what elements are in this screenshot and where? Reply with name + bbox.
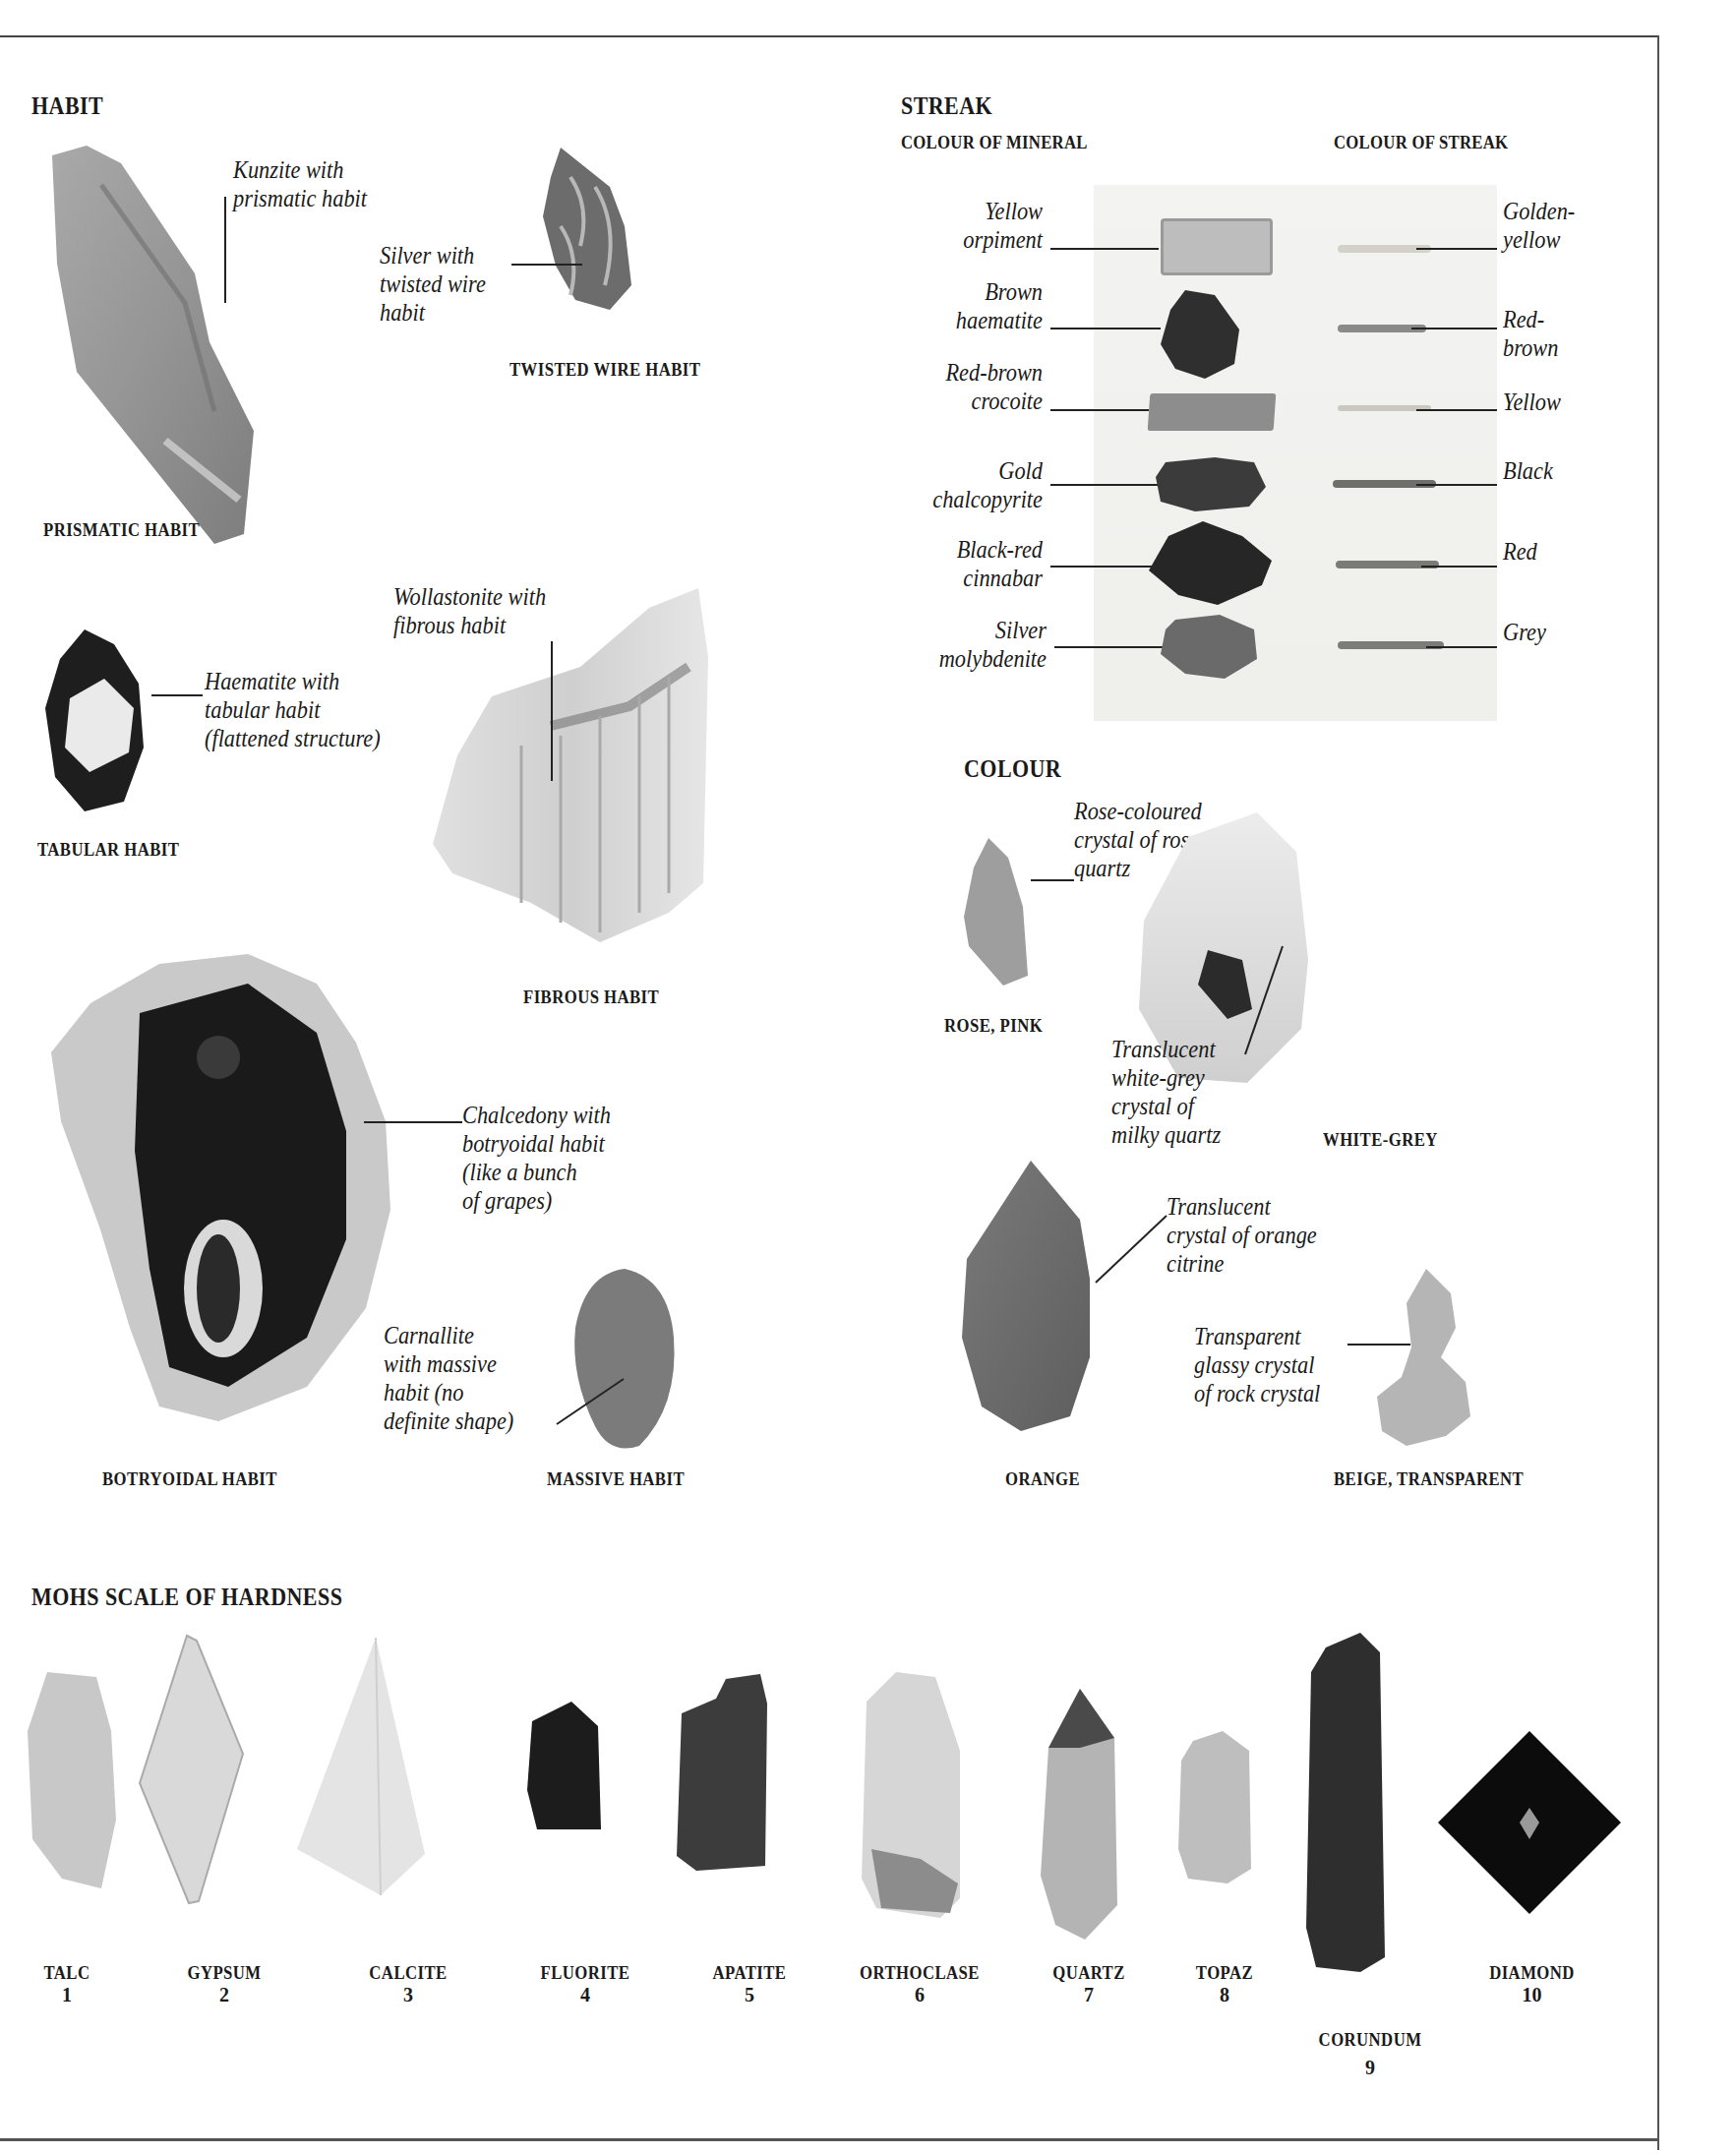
streak-colour-label: Golden- yellow	[1503, 197, 1575, 254]
mineral-leader-line	[1054, 646, 1165, 648]
kunzite-leader-line	[224, 197, 226, 303]
rock-crystal-annotation: Transparent glassy crystal of rock cryst…	[1194, 1322, 1320, 1407]
mohs-mineral: CORUNDUM 9	[1296, 2029, 1444, 2079]
fluorite-specimen-icon	[527, 1702, 606, 1829]
mohs-mineral: CALCITE 3	[344, 1962, 472, 2006]
streak-colour-label: Black	[1503, 456, 1553, 485]
mohs-mineral: TALC 1	[18, 1962, 116, 2006]
streak-leader-line	[1416, 248, 1497, 250]
fibrous-habit-caption: FIBROUS HABIT	[523, 987, 659, 1008]
rock-crystal-icon	[1377, 1269, 1470, 1446]
page-frame-bottom-rule	[0, 2138, 1659, 2141]
mohs-hardness-value: 4	[521, 1984, 649, 2006]
mohs-mineral-name: ORTHOCLASE	[855, 1962, 985, 1984]
chalcedony-geode-icon	[51, 954, 405, 1426]
citrine-icon	[962, 1161, 1095, 1431]
haematite-annotation: Haematite with tabular habit (flattened …	[205, 667, 381, 752]
mineral-colour-label: Yellow orpiment	[873, 197, 1043, 254]
mohs-mineral-name: QUARTZ	[1042, 1962, 1137, 1984]
citrine-annotation: Translucent crystal of orange citrine	[1167, 1192, 1317, 1278]
mohs-mineral-name: TOPAZ	[1181, 1962, 1268, 1984]
prismatic-habit-caption: PRISMATIC HABIT	[43, 519, 200, 541]
gypsum-specimen-icon	[140, 1636, 246, 1903]
page-frame-right-rule	[1657, 35, 1659, 2150]
mohs-mineral-name: FLUORITE	[529, 1962, 641, 1984]
mineral-colour-label: Silver molybdenite	[874, 616, 1047, 673]
colour-of-streak-header: COLOUR OF STREAK	[1334, 132, 1508, 153]
mohs-mineral-name: DIAMOND	[1478, 1962, 1586, 1984]
white-grey-caption: WHITE-GREY	[1323, 1129, 1438, 1151]
mohs-hardness-value: 10	[1470, 1984, 1593, 2006]
apatite-specimen-icon	[677, 1674, 770, 1871]
mineral-leader-line	[1050, 566, 1161, 568]
beige-transparent-caption: BEIGE, TRANSPARENT	[1334, 1468, 1524, 1490]
mohs-mineral: QUARTZ 7	[1035, 1962, 1143, 2006]
mineral-colour-label: Gold chalcopyrite	[873, 456, 1043, 513]
wollastonite-icon	[433, 588, 713, 957]
streak-leader-line	[1421, 566, 1497, 568]
wollastonite-leader-line	[551, 641, 553, 781]
silver-annotation: Silver with twisted wire habit	[380, 241, 486, 327]
mohs-mineral: ORTHOCLASE 6	[846, 1962, 993, 2006]
kunzite-annotation: Kunzite with prismatic habit	[233, 155, 367, 212]
mohs-hardness-value: 9	[1296, 2057, 1444, 2079]
orpiment-specimen-icon	[1161, 218, 1273, 275]
silver-wire-icon	[541, 148, 634, 315]
diamond-specimen-icon	[1438, 1731, 1621, 1914]
streak-leader-line	[1426, 646, 1497, 648]
orange-caption: ORANGE	[1005, 1468, 1080, 1490]
carnallite-leader-line	[557, 1377, 626, 1426]
milky-quartz-annotation: Translucent white-grey crystal of milky …	[1111, 1035, 1221, 1149]
colour-of-mineral-header: COLOUR OF MINERAL	[901, 132, 1088, 153]
orthoclase-specimen-icon	[862, 1672, 965, 1918]
streak-colour-label: Red- brown	[1503, 305, 1558, 362]
mohs-hardness-value: 3	[344, 1984, 472, 2006]
calcite-specimen-icon	[297, 1638, 433, 1898]
massive-habit-caption: MASSIVE HABIT	[547, 1468, 685, 1490]
chalcopyrite-specimen-icon	[1156, 457, 1269, 511]
streak-colour-label: Red	[1503, 537, 1537, 566]
corundum-specimen-icon	[1306, 1633, 1387, 1972]
mohs-hardness-value: 8	[1175, 1984, 1274, 2006]
haematite-crystal-icon	[45, 629, 153, 811]
haematite-specimen-icon	[1161, 290, 1244, 379]
milky-quartz-leader-line	[1243, 946, 1285, 1056]
topaz-specimen-icon	[1178, 1731, 1252, 1884]
silver-leader-line	[511, 264, 582, 266]
streak-colour-label: Yellow	[1503, 388, 1561, 416]
mohs-hardness-value: 5	[686, 1984, 813, 2006]
mohs-hardness-value: 6	[846, 1984, 993, 2006]
quartz-specimen-icon	[1041, 1689, 1119, 1940]
mohs-mineral: TOPAZ 8	[1175, 1962, 1274, 2006]
page-frame-top-rule	[0, 35, 1658, 37]
twisted-wire-habit-caption: TWISTED WIRE HABIT	[509, 359, 700, 381]
mohs-hardness-value: 1	[18, 1984, 116, 2006]
haematite-leader-line	[151, 694, 203, 696]
carnallite-annotation: Carnallite with massive habit (no defini…	[384, 1321, 513, 1435]
mohs-mineral-name: GYPSUM	[172, 1962, 276, 1984]
talc-specimen-icon	[28, 1672, 122, 1888]
streak-colour-label: Grey	[1503, 618, 1546, 646]
mohs-mineral-name: CALCITE	[352, 1962, 464, 1984]
mineral-colour-label: Red-brown crocoite	[873, 358, 1043, 415]
mohs-mineral-name: TALC	[24, 1962, 110, 1984]
rose-quartz-icon	[964, 838, 1035, 986]
streak-heading: STREAK	[901, 92, 992, 120]
streak-leader-line	[1416, 409, 1497, 411]
streak-leader-line	[1411, 328, 1497, 329]
rose-pink-caption: ROSE, PINK	[944, 1015, 1043, 1037]
molybdenite-specimen-icon	[1161, 615, 1259, 679]
botryoidal-habit-caption: BOTRYOIDAL HABIT	[102, 1468, 277, 1490]
colour-heading: COLOUR	[964, 755, 1061, 783]
tabular-habit-caption: TABULAR HABIT	[37, 839, 179, 861]
chalcedony-leader-line	[364, 1121, 462, 1123]
mohs-hardness-value: 7	[1035, 1984, 1143, 2006]
mineral-leader-line	[1050, 248, 1159, 250]
mineral-colour-label: Brown haematite	[873, 277, 1043, 334]
mohs-mineral: APATITE 5	[686, 1962, 813, 2006]
mohs-mineral: DIAMOND 10	[1470, 1962, 1593, 2006]
mohs-mineral-name: APATITE	[693, 1962, 806, 1984]
mineral-leader-line	[1050, 484, 1159, 486]
rock-crystal-leader-line	[1347, 1344, 1410, 1346]
streak-leader-line	[1416, 484, 1497, 486]
